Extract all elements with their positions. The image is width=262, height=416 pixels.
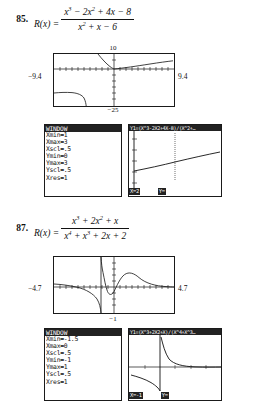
graph-85-screen [53,53,175,107]
graph-85-left-label: −9.4 [28,72,42,81]
window-screen-85-lines: Xmin=1 Xmax=3 Xscl=.5 Ymin=0 Ymax=3 Yscl… [45,132,121,182]
window-line-ymin: Ymin=0 [46,153,120,160]
trace-85-y-value: Y= [158,188,166,195]
problem-85-function-label: R(x) = [34,11,59,29]
problem-87-numerator: x3 + 2x2 + x [69,215,121,228]
problem-85-number: 85. [8,6,28,24]
trace-screen-87-plot: X=-1 Y= [129,335,221,399]
trace-87-svg [129,335,221,399]
window-screen-87-lines: Xmin=-1.5 Xmax=0 Xscl=.5 Ymin=-1 Ymax=1 … [45,336,121,386]
window-line-ymin: Ymin=-1 [46,357,120,364]
textbook-page: 85. R(x) = x3 − 2x2 + 4x − 8 x2 + x − 6 … [0,0,262,416]
window-line-xscl: Xscl=.5 [46,146,120,153]
window-line-xscl: Xscl=.5 [46,350,120,357]
graph-85-svg [54,54,174,106]
problem-85-fraction: x3 − 2x2 + 4x − 8 x2 + x − 6 [61,6,134,33]
graph-85-right-label: 9.4 [178,72,187,81]
window-line-yscl: Yscl=.5 [46,371,120,378]
window-line-xmax: Xmax=0 [46,343,120,350]
problem-87-fraction: x3 + 2x2 + x x4 + x3 + 2x + 2 [61,215,129,242]
problem-87: 87. R(x) = x3 + 2x2 + x x4 + x3 + 2x + 2 [8,215,129,242]
trace-85-x-value: X=2 [129,188,140,195]
graph-87-screen [53,256,175,314]
trace-87-readout: X=-1 Y= [129,392,221,399]
graph-85-bottom-label: −25 [93,106,133,114]
problem-87-calc-row: WINDOW Xmin=-1.5 Xmax=0 Xscl=.5 Ymin=-1 … [44,328,222,401]
trace-screen-87: Y1=(X^3+2X2+X)/(X^4+X^3… [128,328,222,401]
graph-87-svg [54,257,174,313]
problem-85: 85. R(x) = x3 − 2x2 + 4x − 8 x2 + x − 6 [8,6,134,33]
window-line-xmin: Xmin=1 [46,132,120,139]
window-line-xres: Xres=1 [46,175,120,182]
trace-87-y-value: Y= [161,392,169,399]
window-line-ymax: Ymax=1 [46,364,120,371]
problem-87-graph-block: −4.7 4.7 −1 [0,250,262,322]
window-screen-87: WINDOW Xmin=-1.5 Xmax=0 Xscl=.5 Ymin=-1 … [44,328,122,401]
problem-85-numerator: x3 − 2x2 + 4x − 8 [61,6,134,19]
problem-87-function-label: R(x) = [34,220,59,238]
trace-85-svg [129,131,221,195]
window-screen-85: WINDOW Xmin=1 Xmax=3 Xscl=.5 Ymin=0 Ymax… [44,124,122,197]
trace-85-readout: X=2 Y= [129,188,221,195]
problem-85-denominator: x2 + x − 6 [75,20,120,33]
window-line-ymax: Ymax=3 [46,160,120,167]
problem-85-graph-block: 10 −9.4 9.4 −25 [0,44,262,116]
window-screen-85-title: WINDOW [45,125,121,132]
graph-85-top-label: 10 [93,44,133,52]
trace-screen-85-plot: X=2 Y= [129,131,221,195]
problem-87-denominator: x4 + x3 + 2x + 2 [61,229,129,242]
trace-screen-85: Y1=(X^3-2X2+4X-8)/(X^2+… [128,124,222,197]
graph-87-right-label: 4.7 [178,284,187,293]
window-line-xmin: Xmin=-1.5 [46,336,120,343]
window-screen-87-title: WINDOW [45,329,121,336]
graph-87-bottom-label: −1 [93,315,133,323]
window-line-xmax: Xmax=3 [46,139,120,146]
problem-87-number: 87. [8,215,28,233]
window-line-xres: Xres=1 [46,379,120,386]
trace-87-x-value: X=-1 [129,392,143,399]
graph-87-left-label: −4.7 [28,284,42,293]
problem-85-calc-row: WINDOW Xmin=1 Xmax=3 Xscl=.5 Ymin=0 Ymax… [44,124,222,197]
window-line-yscl: Yscl=.5 [46,167,120,174]
